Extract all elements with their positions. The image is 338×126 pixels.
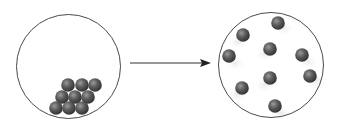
particle <box>75 101 89 115</box>
particle <box>295 48 309 62</box>
particle-cluster <box>49 78 102 115</box>
particle <box>235 81 249 95</box>
particle <box>222 49 236 63</box>
particle <box>236 28 250 42</box>
particle <box>88 78 102 92</box>
particle <box>263 71 277 85</box>
left-container <box>17 15 121 119</box>
particle <box>263 42 277 56</box>
particle <box>61 78 75 92</box>
particle <box>62 101 76 115</box>
particle <box>268 99 282 113</box>
particle <box>271 16 285 30</box>
particle <box>75 78 89 92</box>
transition-arrow <box>130 59 211 67</box>
particle <box>49 101 63 115</box>
right-container <box>219 13 328 122</box>
particle-diagram <box>0 0 338 126</box>
particle <box>303 69 317 83</box>
